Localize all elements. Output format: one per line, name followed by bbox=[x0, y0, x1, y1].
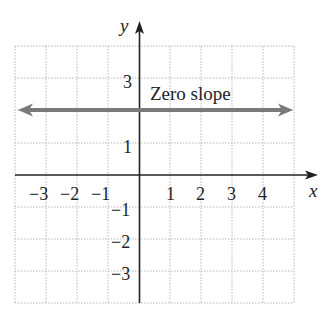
x-tick-1: 1 bbox=[166, 184, 175, 204]
y-axis-label: y bbox=[118, 15, 129, 36]
y-axis bbox=[135, 21, 144, 303]
x-tick-labels: −3 −2 −1 1 2 3 4 bbox=[29, 184, 267, 204]
x-axis bbox=[15, 171, 318, 180]
y-tick-1: 1 bbox=[123, 137, 132, 157]
zero-slope-line bbox=[18, 104, 293, 117]
x-tick-neg3: −3 bbox=[29, 184, 48, 204]
y-tick-neg2: −2 bbox=[111, 232, 130, 252]
x-tick-neg1: −1 bbox=[91, 184, 110, 204]
x-tick-2: 2 bbox=[196, 184, 205, 204]
x-axis-label: x bbox=[308, 180, 318, 201]
zero-slope-annotation: Zero slope bbox=[150, 83, 231, 104]
x-tick-4: 4 bbox=[258, 184, 267, 204]
y-tick-neg3: −3 bbox=[111, 264, 130, 284]
y-tick-3: 3 bbox=[123, 72, 132, 92]
coordinate-graph: y x Zero slope −3 −2 −1 1 2 3 4 3 1 −1 −… bbox=[0, 0, 335, 324]
y-tick-labels: 3 1 −1 −2 −3 bbox=[111, 72, 132, 284]
y-tick-neg1: −1 bbox=[111, 200, 130, 220]
x-tick-neg2: −2 bbox=[60, 184, 79, 204]
x-tick-3: 3 bbox=[227, 184, 236, 204]
